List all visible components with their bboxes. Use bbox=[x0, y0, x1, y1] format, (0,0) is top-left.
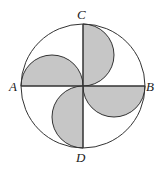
label-a: A bbox=[8, 79, 17, 94]
shaded-semicircle-right bbox=[83, 86, 145, 117]
shaded-semicircle-top bbox=[83, 24, 114, 86]
shaded-semicircle-left bbox=[21, 55, 83, 86]
label-c: C bbox=[77, 7, 86, 22]
shaded-semicircle-bottom bbox=[52, 86, 83, 148]
pinwheel-diagram: A B C D bbox=[0, 0, 160, 170]
label-d: D bbox=[75, 150, 86, 165]
label-b: B bbox=[146, 79, 154, 94]
